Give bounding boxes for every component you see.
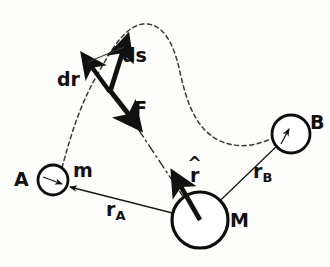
label-vector-f: F — [134, 99, 147, 118]
diagram-canvas: A m M B ds dr F ^r rA rB — [0, 0, 330, 267]
ra-base: r — [106, 198, 115, 220]
r-hat-circumflex: ^ — [188, 155, 202, 172]
label-radius-ra: rA — [106, 200, 125, 222]
ra-subscript: A — [115, 208, 125, 223]
rb-base: r — [253, 160, 262, 182]
label-body-b: B — [310, 113, 324, 132]
body-circle-b — [272, 115, 310, 153]
trajectory-path — [62, 24, 273, 168]
vector-f — [108, 88, 130, 116]
label-radius-rb: rB — [253, 162, 272, 184]
label-body-a: A — [14, 170, 29, 189]
label-vector-r-hat: ^r — [190, 166, 199, 185]
label-mass-m: m — [73, 161, 93, 180]
label-body-m: M — [230, 211, 249, 230]
rb-subscript: B — [262, 170, 272, 185]
label-vector-ds: ds — [122, 46, 147, 65]
vector-diagram-svg — [0, 0, 330, 267]
label-vector-dr: dr — [57, 70, 80, 89]
